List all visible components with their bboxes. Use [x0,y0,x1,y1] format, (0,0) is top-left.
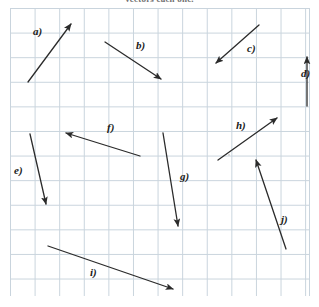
vector-h-label: h) [236,120,246,131]
vector-arrows-layer [0,0,319,307]
vector-f [66,133,140,156]
vector-f-label: f) [107,122,114,133]
vector-i [48,246,173,289]
vector-e-label: e) [14,165,23,176]
vector-b [105,42,161,79]
vector-j [256,160,286,249]
worksheet-page: vectors each one. a)b)c)d)e)f)g)h)i)j) [0,0,319,307]
vector-g [163,133,178,226]
vector-i-label: i) [90,267,97,278]
vector-b-label: b) [136,40,145,51]
vector-a-label: a) [33,26,42,37]
vector-e [30,134,46,204]
vector-c-label: c) [247,43,256,54]
vector-h [218,118,277,160]
vector-j-label: j) [281,214,288,225]
vector-d-label: d) [301,68,310,79]
vector-g-label: g) [180,171,189,182]
